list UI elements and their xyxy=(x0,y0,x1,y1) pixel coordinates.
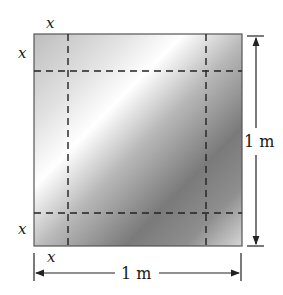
label-left-top-x: x xyxy=(18,44,27,62)
square-sheet xyxy=(34,34,242,246)
label-left-bottom-x: x xyxy=(18,220,27,238)
label-bottom-x: x xyxy=(47,248,56,266)
label-bottom-dimension: 1 m xyxy=(121,264,151,283)
label-top-x: x xyxy=(46,14,55,32)
label-right-dimension: 1 m xyxy=(244,132,274,151)
diagram-canvas: x x x x 1 m 1 m xyxy=(0,0,283,295)
